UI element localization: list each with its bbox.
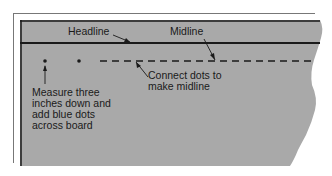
connect-dots-label: Connect dots to make midline bbox=[148, 70, 222, 92]
dot-1 bbox=[43, 59, 47, 63]
headline-label: Headline bbox=[68, 25, 109, 37]
midline-label: Midline bbox=[170, 25, 203, 37]
dot-2 bbox=[77, 59, 81, 63]
measure-instructions-label: Measure three inches down and add blue d… bbox=[32, 87, 111, 131]
